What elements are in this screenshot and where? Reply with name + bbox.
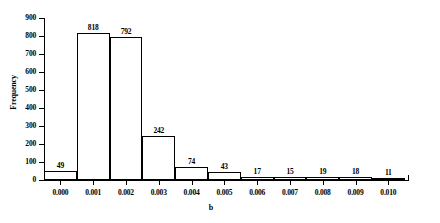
x-tick-label-0.006: 0.006 [249,188,265,197]
x-axis-title: b [0,203,440,212]
histogram-bar [372,178,405,180]
x-tick-label-0.007: 0.007 [282,188,298,197]
x-axis-line [44,180,409,181]
y-tick-300 [39,126,45,127]
bar-value-label: 19 [319,167,326,176]
x-tick-label-0.010: 0.010 [380,188,396,197]
bar-value-label: 49 [57,161,64,170]
y-tick-600 [39,72,45,73]
y-tick-label-700: 700 [0,50,39,58]
x-tick-0.006 [257,180,258,185]
x-tick-0.003 [159,180,160,185]
y-tick-label-200: 200 [0,140,39,148]
histogram-bar [208,172,241,180]
y-axis-line [44,18,45,181]
x-tick-label-0.002: 0.002 [118,188,134,197]
bar-value-label: 11 [385,168,392,177]
bar-value-label: 74 [188,157,195,166]
x-tick-label-0.005: 0.005 [216,188,232,197]
x-tick-label-0.000: 0.000 [52,188,68,197]
y-tick-label-0: 0 [0,176,39,184]
y-tick-label-800: 800 [0,32,39,40]
y-tick-label-900: 900 [0,14,39,22]
bar-value-label: 15 [286,167,293,176]
x-tick-0.004 [192,180,193,185]
histogram-bar [142,136,175,180]
y-tick-400 [39,108,45,109]
x-tick-0.010 [388,180,389,185]
histogram-bar [339,177,372,180]
x-tick-label-0.003: 0.003 [151,188,167,197]
y-tick-900 [39,18,45,19]
histogram-bar [77,33,110,180]
x-tick-0.009 [356,180,357,185]
y-axis-title: Frequency [9,58,18,128]
y-tick-100 [39,162,45,163]
x-tick-0.001 [93,180,94,185]
bar-value-label: 242 [153,126,164,135]
histogram-bar [110,37,143,180]
y-tick-500 [39,90,45,91]
x-axis-title-text: b [209,203,213,212]
histogram-bar [274,177,307,180]
x-tick-0.002 [126,180,127,185]
x-tick-0.007 [290,180,291,185]
histogram-bar [241,177,274,180]
histogram-bar [44,171,77,180]
x-tick-0.008 [323,180,324,185]
bar-value-label: 18 [352,167,359,176]
x-tick-0.005 [224,180,225,185]
y-tick-800 [39,36,45,37]
y-tick-label-500: 500 [0,86,39,94]
y-tick-200 [39,144,45,145]
x-tick-label-0.004: 0.004 [184,188,200,197]
y-tick-label-100: 100 [0,158,39,166]
y-tick-label-400: 400 [0,104,39,112]
y-tick-label-300: 300 [0,122,39,130]
bar-value-label: 792 [121,27,132,36]
y-tick-700 [39,54,45,55]
histogram-bar [175,167,208,180]
x-axis-end-tick [408,175,409,181]
histogram-figure: 0100200300400500600700800900 0.0000.0010… [0,0,440,223]
histogram-bar [306,177,339,180]
bar-value-label: 818 [88,23,99,32]
y-tick-0 [39,180,45,181]
x-tick-label-0.009: 0.009 [348,188,364,197]
x-tick-0.000 [60,180,61,185]
x-tick-label-0.001: 0.001 [85,188,101,197]
y-tick-label-600: 600 [0,68,39,76]
bar-value-label: 17 [254,167,261,176]
bar-value-label: 43 [221,162,228,171]
y-axis-tick-labels: 0100200300400500600700800900 [0,0,36,223]
x-tick-label-0.008: 0.008 [315,188,331,197]
